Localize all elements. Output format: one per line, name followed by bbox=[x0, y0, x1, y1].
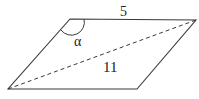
angle-label: α bbox=[74, 34, 82, 49]
parallelogram-diagram: 5 α 11 bbox=[0, 0, 199, 99]
diagonal-length-label: 11 bbox=[103, 59, 117, 75]
side-length-label: 5 bbox=[120, 4, 127, 19]
angle-arc bbox=[61, 19, 84, 35]
dashed-diagonal bbox=[8, 20, 196, 89]
